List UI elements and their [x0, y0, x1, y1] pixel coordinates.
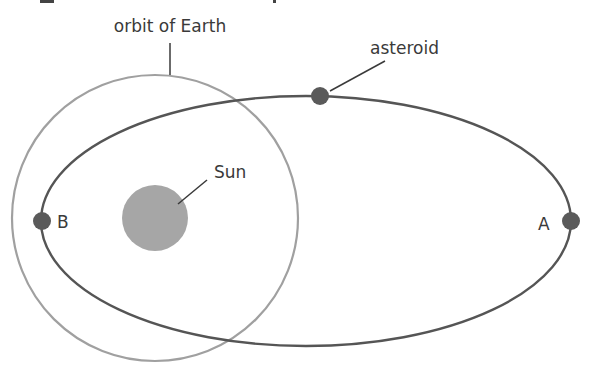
sun-leader-line — [178, 180, 207, 204]
asteroid-orbit-ellipse — [41, 96, 571, 346]
point-b-dot-icon — [33, 212, 51, 230]
asteroid-label: asteroid — [370, 38, 439, 58]
point-a-label: A — [538, 214, 550, 234]
point-b-label: B — [57, 212, 69, 232]
orbit-diagram: orbit of Earth asteroid Sun B A — [0, 0, 603, 366]
point-a-dot-icon — [562, 212, 580, 230]
asteroid-leader-line — [330, 61, 385, 91]
cropped-title-fragment — [40, 0, 54, 3]
cropped-title-fragment — [273, 0, 276, 3]
sun-label: Sun — [214, 162, 246, 182]
earth-orbit-label: orbit of Earth — [114, 16, 226, 36]
sun-icon — [122, 185, 188, 251]
asteroid-dot-icon — [311, 87, 329, 105]
